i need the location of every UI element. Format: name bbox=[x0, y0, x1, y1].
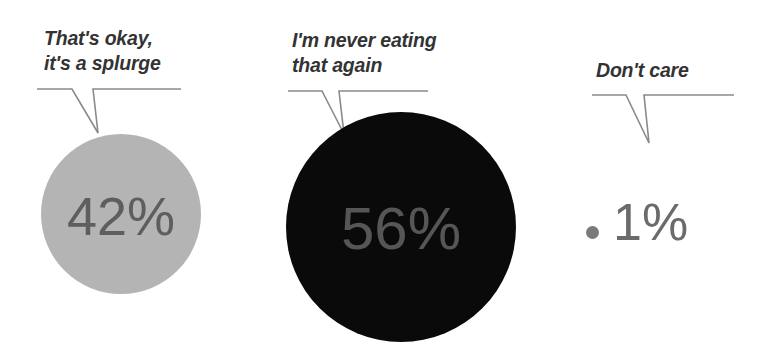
bubble-dontcare bbox=[586, 226, 599, 239]
leader-line-dontcare bbox=[592, 95, 734, 143]
bubble-group-dontcare: 1% bbox=[586, 196, 688, 248]
callout-label-splurge: That's okay, it's a splurge bbox=[44, 26, 161, 76]
bubble-value-dontcare: 1% bbox=[613, 196, 688, 248]
bubble-value-never: 56% bbox=[341, 199, 461, 259]
leader-line-splurge bbox=[37, 89, 181, 133]
bubble-value-splurge: 42% bbox=[67, 189, 175, 243]
bubble-chart-infographic: That's okay, it's a splurge I'm never ea… bbox=[0, 0, 765, 352]
callout-label-dontcare: Don't care bbox=[596, 58, 689, 83]
callout-label-never: I'm never eating that again bbox=[292, 28, 437, 78]
bubble-splurge: 42% bbox=[41, 134, 201, 294]
bubble-never: 56% bbox=[286, 112, 516, 342]
